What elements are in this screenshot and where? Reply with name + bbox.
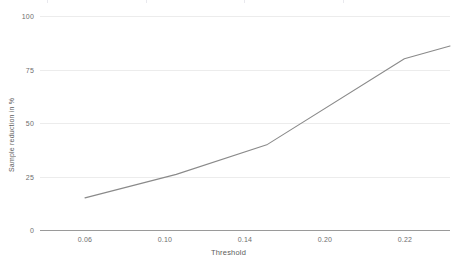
line-chart: Sample reduction in % 100 75 50 25 0 0.0… [0, 0, 457, 267]
x-tick-label: 0.06 [78, 236, 92, 243]
y-tick-label: 25 [26, 173, 34, 180]
x-tick-label: 0.10 [158, 236, 172, 243]
clipped-top-artifacts [0, 0, 457, 5]
x-axis-line [40, 230, 450, 231]
y-tick-label: 0 [30, 227, 34, 234]
x-tick-label: 0.14 [238, 236, 252, 243]
series-line [40, 16, 450, 230]
clip-mark [47, 0, 48, 3]
series-polyline [85, 46, 450, 198]
y-tick-label: 75 [26, 66, 34, 73]
clip-mark [244, 0, 245, 3]
y-tick-label: 50 [26, 120, 34, 127]
x-axis-title: Threshold [0, 248, 457, 257]
clip-mark [343, 0, 344, 3]
y-tick-label: 100 [22, 13, 34, 20]
x-tick-label: 0.22 [398, 236, 412, 243]
y-axis-tick-labels: 100 75 50 25 0 [0, 0, 34, 267]
plot-area [40, 16, 450, 230]
clip-mark [146, 0, 147, 3]
x-tick-label: 0.20 [318, 236, 332, 243]
